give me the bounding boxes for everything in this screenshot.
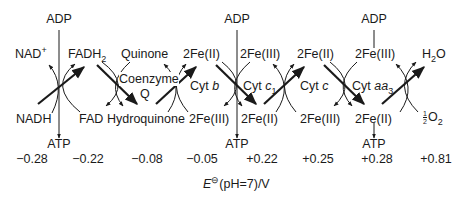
fraction-numerator: 1 [423, 110, 427, 117]
q-label: Q [140, 87, 150, 101]
cyt-c-prefix: Cyt [300, 79, 322, 93]
fe3-label-2: 2Fe(III) [355, 47, 395, 61]
cyt-aa3-letters: aa [374, 79, 388, 93]
cyt-aa3-prefix: Cyt [352, 79, 374, 93]
cyt-b-label: Cyt b [190, 79, 219, 93]
cyt-c-label: Cyt c [300, 79, 328, 93]
h2o-h: H [422, 47, 431, 61]
nad-superscript: + [41, 45, 46, 55]
nad-text: NAD [15, 47, 41, 61]
crossing-5-right-arc [284, 64, 296, 112]
nadh-label: NADH [16, 112, 51, 126]
adp-label-1: ADP [46, 12, 72, 26]
cyt-b-prefix: Cyt [190, 79, 212, 93]
cyt-c1-prefix: Cyt [243, 79, 265, 93]
fadh-text: FADH [68, 47, 101, 61]
o2-subscript: 2 [438, 117, 443, 127]
potential-cyt-b: −0.05 [186, 152, 218, 166]
fe3-label-b: 2Fe(III) [300, 112, 340, 126]
atp-label-2: ATP [225, 137, 248, 151]
fadh2-label: FADH2 [68, 47, 106, 61]
fe3-label-a: 2Fe(III) [189, 112, 229, 126]
fe2-label-2: 2Fe(II) [297, 47, 334, 61]
h2o-label: H2O [422, 47, 446, 61]
one-half-fraction: 12 [423, 110, 427, 125]
adp-label-3: ADP [361, 12, 387, 26]
axis-label: E⊖(pH=7)/V [203, 177, 270, 191]
potential-cyt-aa3: +0.28 [361, 152, 393, 166]
cyt-aa3-label: Cyt aa3 [352, 79, 393, 93]
potential-fad: −0.22 [72, 152, 104, 166]
potential-cyt-c: +0.25 [302, 152, 334, 166]
cyt-c1-label: Cyt c1 [243, 79, 277, 93]
o2-o: O [428, 110, 438, 124]
quinone-label: Quinone [121, 47, 168, 61]
fe2-label-a: 2Fe(II) [241, 112, 278, 126]
crossing-1-electron-arrow [38, 67, 84, 104]
fraction-denominator: 2 [423, 117, 427, 125]
potential-quinone: −0.08 [131, 152, 163, 166]
adp-label-2: ADP [224, 12, 250, 26]
cyt-aa3-subscript: 3 [388, 86, 393, 96]
nad-plus-label: NAD+ [15, 47, 47, 61]
coenzyme-label: Coenzyme [119, 72, 179, 86]
axis-unit-text: (pH=7)/V [219, 177, 269, 191]
diagram-graphics [0, 0, 469, 199]
hydroquinone-label: Hydroquinone [107, 112, 185, 126]
fad-label: FAD [79, 112, 103, 126]
electron-transport-diagram: ADP ADP ADP NAD+ FADH2 Quinone 2Fe(II) 2… [0, 0, 469, 199]
crossing-7-right-arc [404, 62, 418, 112]
cyt-c1-subscript: 1 [271, 86, 276, 96]
cyt-b-letter: b [212, 79, 219, 93]
fe2-label-1: 2Fe(II) [183, 47, 220, 61]
half-o2-label: 12O2 [423, 110, 443, 125]
fe2-label-b: 2Fe(II) [355, 112, 392, 126]
cyt-c-letter: c [322, 79, 328, 93]
potential-cyt-c1: +0.22 [246, 152, 278, 166]
fadh-subscript: 2 [101, 54, 106, 64]
potential-nad: −0.28 [16, 152, 48, 166]
crossing-7-left-arc [396, 64, 408, 112]
fe3-label-1: 2Fe(III) [240, 47, 280, 61]
h2o-o: O [436, 47, 446, 61]
atp-label-1: ATP [47, 137, 70, 151]
atp-label-3: ATP [362, 137, 385, 151]
potential-o2: +0.81 [420, 152, 452, 166]
